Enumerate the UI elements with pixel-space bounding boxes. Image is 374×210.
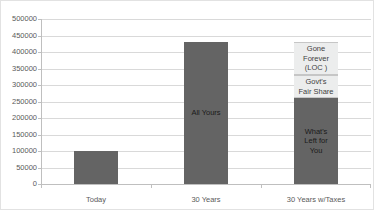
y-tick-mark bbox=[38, 36, 41, 37]
gridline-500000 bbox=[41, 19, 371, 20]
y-tick-mark bbox=[38, 151, 41, 152]
y-tick-mark bbox=[38, 118, 41, 119]
x-axis-label-today: Today bbox=[36, 195, 156, 204]
x-tick-mark bbox=[261, 185, 262, 188]
y-tick-label-100000: 100000 bbox=[0, 147, 37, 155]
gridline-450000 bbox=[41, 36, 371, 37]
y-tick-label-350000: 350000 bbox=[0, 65, 37, 73]
x-axis-label-30-years: 30 Years bbox=[146, 195, 266, 204]
bar-label-line-1: Govt's bbox=[305, 77, 326, 86]
y-tick-label-500000: 500000 bbox=[0, 15, 37, 23]
bar-label-line-2: (LOC ) bbox=[305, 63, 328, 72]
bar-segment-govts-fair-share: Govt'sFair Share bbox=[294, 75, 338, 98]
bar-label-line-2: Left for bbox=[304, 136, 327, 145]
bar-label-line-2: Fair Share bbox=[298, 87, 333, 96]
y-tick-mark bbox=[38, 52, 41, 53]
chart-frame: 500000 450000 400000 350000 300000 25000… bbox=[0, 0, 374, 210]
bar-label-govts-fair-share: Govt'sFair Share bbox=[297, 77, 334, 96]
x-axis-line bbox=[41, 184, 371, 185]
bar-label-all-yours: All Yours bbox=[190, 108, 221, 118]
bar-segment-whats-left-for-you: What'sLeft forYou bbox=[294, 98, 338, 184]
y-tick-mark bbox=[38, 69, 41, 70]
bar-30-years[interactable]: All Yours bbox=[184, 42, 228, 184]
y-tick-label-200000: 200000 bbox=[0, 114, 37, 122]
y-tick-mark bbox=[38, 168, 41, 169]
y-tick-label-300000: 300000 bbox=[0, 81, 37, 89]
x-tick-mark bbox=[151, 185, 152, 188]
y-tick-mark bbox=[38, 102, 41, 103]
bar-segment-all-yours: All Yours bbox=[184, 42, 228, 184]
y-tick-mark bbox=[38, 85, 41, 86]
y-tick-label-450000: 450000 bbox=[0, 32, 37, 40]
y-tick-label-0: 0 bbox=[0, 180, 37, 188]
y-axis-line bbox=[41, 19, 42, 185]
bar-label-whats-left-for-you: What'sLeft forYou bbox=[303, 127, 328, 156]
bar-segment-gone-forever: Gone Forever(LOC ) bbox=[294, 42, 338, 75]
x-axis-label-30-years-with-taxes: 30 Years w/Taxes bbox=[256, 195, 374, 204]
y-tick-label-150000: 150000 bbox=[0, 131, 37, 139]
y-tick-mark bbox=[38, 135, 41, 136]
x-tick-mark bbox=[370, 185, 371, 188]
bar-label-line-1: What's bbox=[305, 127, 328, 136]
bar-label-line-1: Gone Forever bbox=[303, 44, 329, 63]
plot-area: 500000 450000 400000 350000 300000 25000… bbox=[41, 19, 371, 185]
y-tick-mark bbox=[38, 19, 41, 20]
y-tick-label-50000: 50000 bbox=[0, 164, 37, 172]
bar-today[interactable] bbox=[74, 151, 118, 184]
y-tick-label-400000: 400000 bbox=[0, 48, 37, 56]
bar-segment-today-value bbox=[74, 151, 118, 184]
bar-label-gone-forever: Gone Forever(LOC ) bbox=[294, 44, 338, 73]
bar-label-line-3: You bbox=[310, 146, 323, 155]
bar-30-years-with-taxes[interactable]: What'sLeft forYou Govt'sFair Share Gone … bbox=[294, 42, 338, 184]
y-tick-label-250000: 250000 bbox=[0, 98, 37, 106]
x-tick-mark bbox=[41, 185, 42, 188]
